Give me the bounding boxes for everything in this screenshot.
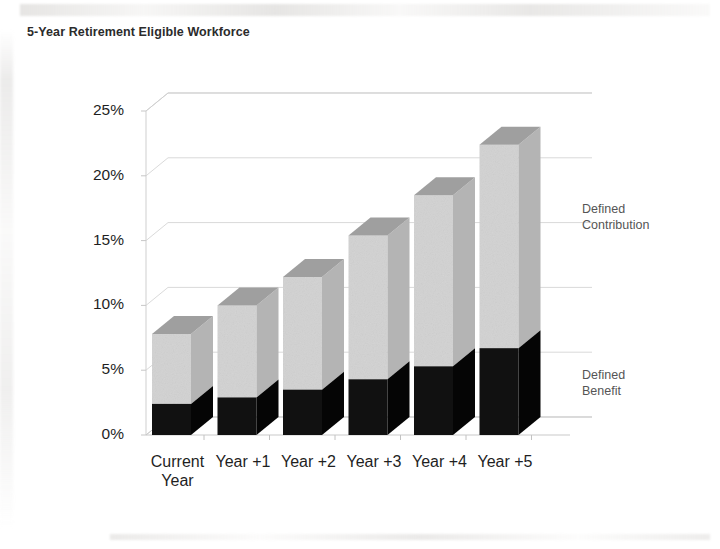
bar-column [414, 177, 475, 435]
bar-column [480, 127, 541, 435]
y-axis-tick-label: 5% [62, 360, 124, 378]
y-axis-tick-label: 0% [62, 425, 124, 443]
bars-group [152, 127, 541, 435]
series-label-defined-contribution: Defined Contribution [582, 202, 649, 233]
bar-column [283, 259, 344, 435]
y-axis-tick-label: 25% [62, 101, 124, 119]
series-label-defined-benefit: Defined Benefit [582, 368, 625, 399]
chart-container: 25%20%15%10%5%0% CurrentYearYear +1Year … [0, 0, 720, 549]
bar-column [349, 217, 410, 435]
y-axis-tick-label: 15% [62, 231, 124, 249]
y-axis-tick-label: 20% [62, 166, 124, 184]
bar-column [218, 287, 279, 435]
bar-column [152, 316, 213, 435]
y-axis-tick-label: 10% [62, 295, 124, 313]
x-axis-tick-label: Year +5 [462, 453, 548, 472]
